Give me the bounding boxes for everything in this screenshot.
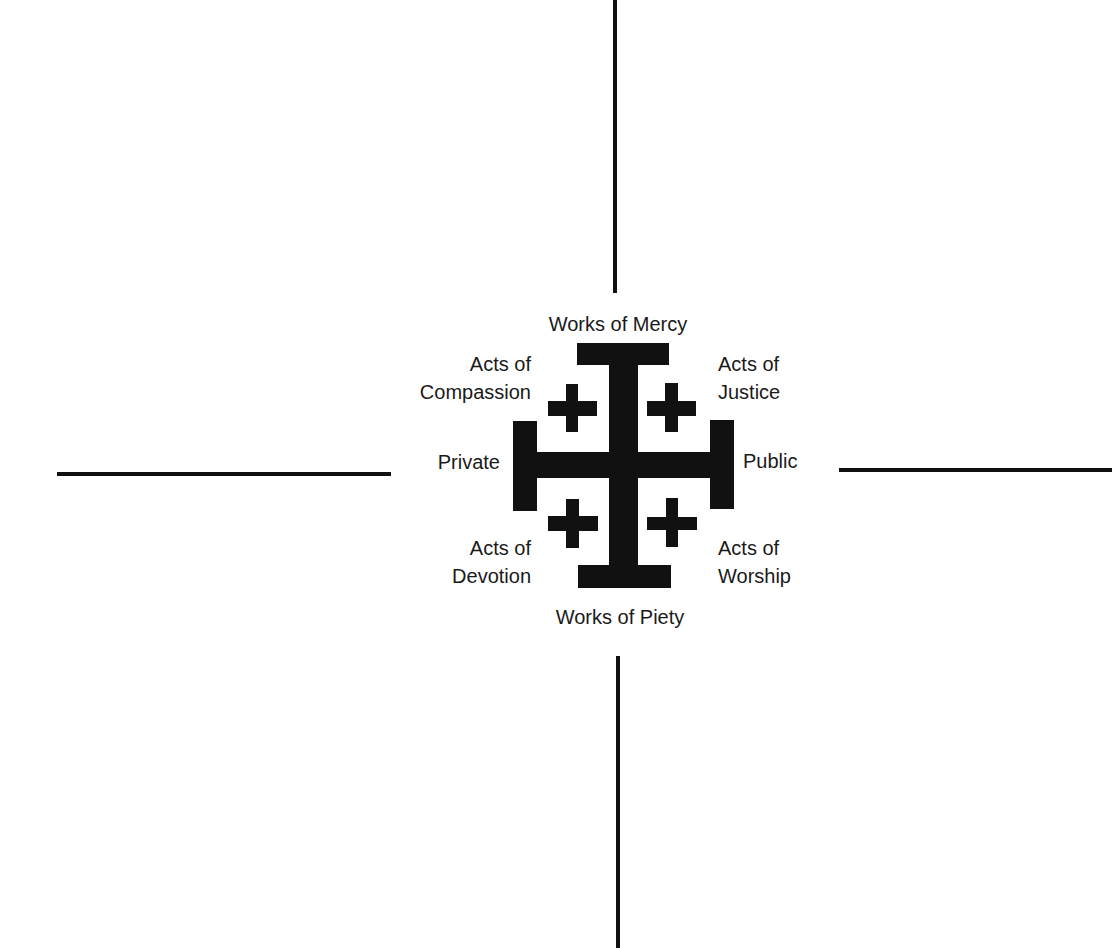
label-public: Public xyxy=(743,448,863,474)
label-acts-of-justice-line1: Acts of xyxy=(718,351,779,377)
cross-horizontal-arm xyxy=(513,452,734,478)
label-private: Private xyxy=(380,449,500,475)
label-acts-of-justice-line2: Justice xyxy=(718,379,780,405)
axis-line-left xyxy=(57,472,391,476)
cross-bottom-bar xyxy=(578,565,671,588)
label-acts-of-compassion-line2: Compassion xyxy=(380,379,531,405)
axis-line-bottom xyxy=(616,656,620,948)
label-acts-of-devotion-line2: Devotion xyxy=(380,563,531,589)
axis-line-top xyxy=(613,0,617,293)
cross-left-bar xyxy=(513,421,537,511)
label-works-of-mercy: Works of Mercy xyxy=(518,311,718,337)
label-acts-of-worship-line2: Worship xyxy=(718,563,791,589)
label-acts-of-devotion-line1: Acts of xyxy=(380,535,531,561)
cross-right-bar xyxy=(710,420,734,509)
label-works-of-piety: Works of Piety xyxy=(520,604,720,630)
axis-line-right xyxy=(839,468,1112,472)
label-acts-of-worship-line1: Acts of xyxy=(718,535,779,561)
label-acts-of-compassion-line1: Acts of xyxy=(380,351,531,377)
